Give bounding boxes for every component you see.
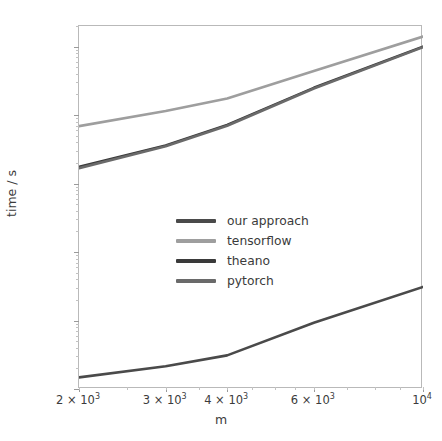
y-tick-major (74, 252, 79, 253)
y-tick-minor (76, 204, 79, 205)
y-tick-minor (76, 331, 79, 332)
y-tick-minor (76, 336, 79, 337)
y-tick-minor (76, 341, 79, 342)
legend-swatch-icon (176, 279, 216, 282)
y-tick-minor (76, 368, 79, 369)
y-tick-minor (76, 163, 79, 164)
y-tick-minor (76, 94, 79, 95)
x-tick-label: 6 × 103 (291, 392, 335, 407)
y-tick-minor (76, 74, 79, 75)
y-tick-minor (76, 50, 79, 51)
y-tick-minor (76, 82, 79, 83)
y-tick-minor (76, 122, 79, 123)
y-tick-minor (76, 62, 79, 63)
y-tick-minor (76, 263, 79, 264)
y-tick-minor (76, 190, 79, 191)
legend-label: tensorflow (227, 234, 292, 248)
y-tick-minor (76, 53, 79, 54)
y-tick-major (74, 184, 79, 185)
y-tick-minor (76, 187, 79, 188)
x-tick-minor (275, 387, 276, 390)
legend-label: pytorch (227, 274, 274, 288)
legend-label: our approach (227, 214, 309, 228)
x-tick-minor (314, 387, 315, 390)
series-line-our-approach (79, 287, 423, 377)
y-tick-minor (76, 199, 79, 200)
x-tick-minor (347, 387, 348, 390)
y-tick-major (74, 321, 79, 322)
y-tick-minor (76, 300, 79, 301)
x-tick-minor (400, 387, 401, 390)
y-tick-minor (76, 136, 79, 137)
legend-swatch-icon (176, 219, 216, 222)
series-line-theano (79, 47, 423, 167)
y-tick-minor (76, 130, 79, 131)
y-tick-minor (76, 356, 79, 357)
data-lines-group (79, 26, 423, 389)
series-line-pytorch (79, 47, 423, 168)
y-tick-minor (76, 348, 79, 349)
legend-item-our-approach[interactable]: our approach (176, 211, 321, 231)
y-tick-minor (76, 67, 79, 68)
chart-legend: our approachtensorflowtheanopytorch (176, 211, 321, 291)
x-tick-minor (423, 387, 424, 390)
x-tick-label: 2 × 103 (56, 392, 100, 407)
y-tick-minor (76, 126, 79, 127)
y-tick-minor (76, 194, 79, 195)
legend-swatch-icon (176, 239, 216, 242)
y-tick-minor (76, 267, 79, 268)
x-tick-minor (166, 387, 167, 390)
y-tick-minor (76, 255, 79, 256)
legend-swatch-icon (176, 259, 216, 262)
y-tick-minor (76, 151, 79, 152)
y-tick-major (74, 47, 79, 48)
y-axis-title: time / s (4, 170, 19, 217)
x-tick-minor (295, 387, 296, 390)
y-tick-minor (76, 259, 79, 260)
y-tick-minor (76, 231, 79, 232)
series-line-tensorflow (79, 37, 423, 127)
y-tick-major (74, 115, 79, 116)
y-tick-minor (76, 288, 79, 289)
x-tick-label: 3 × 103 (143, 392, 187, 407)
legend-item-pytorch[interactable]: pytorch (176, 271, 321, 291)
x-tick-minor (127, 387, 128, 390)
y-tick-minor (76, 26, 79, 27)
x-tick-minor (199, 387, 200, 390)
y-tick-minor (76, 327, 79, 328)
y-tick-minor (76, 273, 79, 274)
x-axis-title: m (0, 412, 442, 427)
x-tick-label: 4 × 103 (204, 392, 248, 407)
legend-label: theano (227, 254, 270, 268)
y-tick-minor (76, 219, 79, 220)
y-tick-minor (76, 118, 79, 119)
y-tick-minor (76, 279, 79, 280)
legend-item-tensorflow[interactable]: tensorflow (176, 231, 321, 251)
y-tick-minor (76, 57, 79, 58)
y-tick-minor (76, 211, 79, 212)
plot-area: our approachtensorflowtheanopytorch (78, 25, 422, 388)
figure-canvas: time / s m our approachtensorflowtheanop… (0, 0, 442, 441)
x-tick-minor (79, 387, 80, 390)
x-tick-minor (375, 387, 376, 390)
legend-item-theano[interactable]: theano (176, 251, 321, 271)
x-tick-minor (227, 387, 228, 390)
x-tick-label: 104 (412, 392, 432, 407)
y-tick-minor (76, 142, 79, 143)
y-tick-minor (76, 324, 79, 325)
x-tick-minor (252, 387, 253, 390)
